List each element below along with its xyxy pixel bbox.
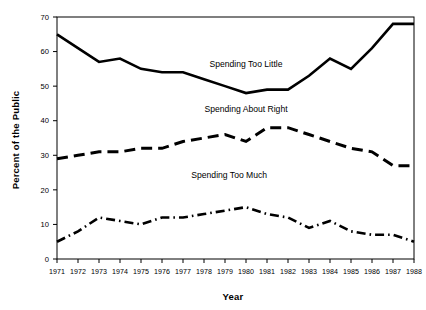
- y-tick-label: 10: [41, 220, 49, 229]
- chart-container: 010203040506070 197119721973197419751976…: [0, 0, 426, 310]
- y-tick-label: 50: [41, 82, 49, 91]
- x-axis-ticks: 1971197219731974197519761977197819791980…: [49, 259, 422, 276]
- x-tick-label: 1987: [385, 268, 401, 276]
- public-opinion-spending-line-chart: 010203040506070 197119721973197419751976…: [0, 0, 426, 310]
- y-tick-label: 0: [45, 255, 49, 264]
- y-axis-title: Percent of the Public: [10, 91, 21, 190]
- series-line-spending-too-much: [57, 207, 414, 242]
- y-axis-ticks: 010203040506070: [41, 13, 57, 264]
- x-tick-label: 1988: [406, 268, 422, 276]
- y-tick-label: 60: [41, 47, 49, 56]
- x-tick-label: 1983: [301, 268, 317, 276]
- x-tick-label: 1981: [259, 268, 275, 276]
- x-tick-label: 1971: [49, 268, 65, 276]
- y-tick-label: 30: [41, 151, 49, 160]
- x-tick-label: 1974: [112, 268, 128, 276]
- x-tick-label: 1984: [322, 268, 338, 276]
- x-tick-label: 1973: [91, 268, 107, 276]
- series-label-spending-too-little: Spending Too Little: [210, 59, 283, 69]
- x-tick-label: 1982: [280, 268, 296, 276]
- series-label-spending-too-much: Spending Too Much: [191, 170, 267, 180]
- x-tick-label: 1986: [364, 268, 380, 276]
- x-tick-label: 1975: [133, 268, 149, 276]
- plot-frame: [57, 17, 414, 259]
- x-tick-label: 1977: [175, 268, 191, 276]
- series-line-spending-about-right: [57, 128, 414, 166]
- x-axis-title: Year: [223, 291, 244, 302]
- x-tick-label: 1985: [343, 268, 359, 276]
- x-tick-label: 1980: [238, 268, 254, 276]
- x-tick-label: 1979: [217, 268, 233, 276]
- x-tick-label: 1978: [196, 268, 212, 276]
- x-tick-label: 1972: [70, 268, 86, 276]
- y-tick-label: 70: [41, 13, 49, 22]
- series-annotations: Spending Too LittleSpending Too LittleSp…: [191, 59, 288, 180]
- x-tick-label: 1976: [154, 268, 170, 276]
- y-tick-label: 40: [41, 116, 49, 125]
- data-series-group: [57, 24, 414, 242]
- series-label-spending-about-right: Spending About Right: [204, 104, 288, 114]
- y-tick-label: 20: [41, 186, 49, 195]
